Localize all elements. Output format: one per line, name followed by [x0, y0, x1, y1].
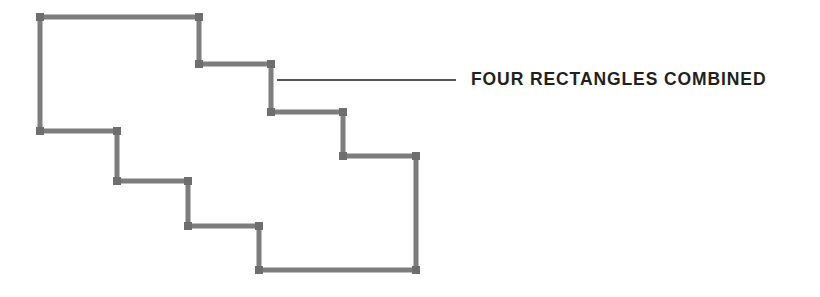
polygon-vertex-marker: [255, 222, 263, 230]
polygon-vertex-marker: [267, 108, 275, 116]
polygon-vertex-marker: [195, 13, 203, 21]
figure-canvas: FOUR RECTANGLES COMBINED: [0, 0, 820, 297]
polygon-vertex-marker: [184, 222, 192, 230]
polygon-vertex-marker: [339, 152, 347, 160]
polygon-vertex-marker: [255, 266, 263, 274]
polygon-vertex-marker: [36, 127, 44, 135]
polygon-vertex-marker: [267, 60, 275, 68]
callout-label: FOUR RECTANGLES COMBINED: [471, 68, 766, 90]
polygon-vertex-marker: [412, 266, 420, 274]
polygon-vertex-marker: [412, 152, 420, 160]
polygon-vertex-marker: [184, 177, 192, 185]
polygon-vertex-markers: [36, 13, 420, 274]
polygon-vertex-marker: [195, 60, 203, 68]
staircase-polygon-diagram: [0, 0, 820, 297]
polygon-vertex-marker: [113, 177, 121, 185]
polygon-vertex-marker: [339, 108, 347, 116]
polygon-vertex-marker: [36, 13, 44, 21]
polygon-vertex-marker: [113, 127, 121, 135]
staircase-polygon-outline: [40, 17, 416, 270]
